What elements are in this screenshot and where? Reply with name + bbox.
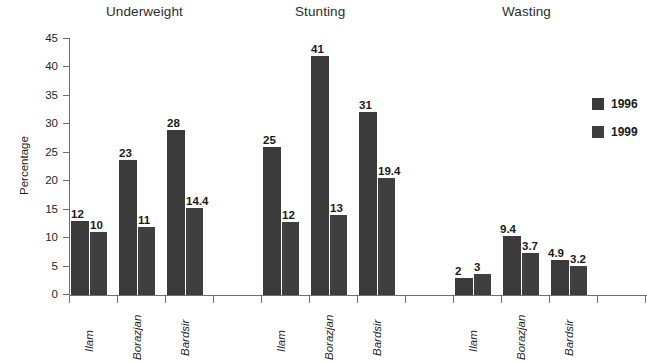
bar-underweight-ilam-1996[interactable] [71,221,89,295]
legend-label-1999: 1999 [611,125,638,139]
legend-swatch-1999-icon [592,126,604,138]
bar-value-wasting-ilam-1996: 2 [454,265,462,277]
x-tick-mark-5 [309,296,310,303]
x-tick-mark-10 [549,296,550,303]
x-tick-mark-2 [165,296,166,303]
group-title-wasting: Wasting [502,4,551,19]
y-tick-label-0: 0 [32,288,58,300]
bar-value-underweight-ilam-1996: 12 [70,208,85,220]
y-tick-label-45: 45 [32,32,58,44]
x-category-label-underweight-bardsir: Bardsir [179,320,191,356]
bar-value-underweight-bardsir-1999: 14.4 [185,195,209,207]
legend-item-1996[interactable]: 1996 [592,97,638,111]
y-tick-label-10: 10 [32,231,58,243]
bar-value-wasting-borazjan-1999: 3.7 [521,240,539,252]
x-category-label-stunting-borazjan: Borazjan [323,315,335,360]
legend-label-1996: 1996 [611,97,638,111]
x-tick-mark-9 [501,296,502,303]
y-tick-label-5: 5 [32,260,58,272]
bar-value-stunting-ilam-1999: 12 [281,209,296,221]
y-tick-label-15: 15 [32,203,58,215]
bar-wasting-ilam-1999[interactable] [473,274,491,295]
bar-value-wasting-borazjan-1996: 9.4 [499,223,517,235]
bar-stunting-ilam-1996[interactable] [263,147,281,295]
bar-wasting-bardsir-1999[interactable] [569,266,587,295]
x-tick-mark-11 [597,296,598,303]
bar-value-underweight-borazjan-1996: 23 [118,147,133,159]
bar-stunting-bardsir-1996[interactable] [359,112,377,295]
bar-value-wasting-bardsir-1996: 4.9 [547,247,565,259]
bar-value-underweight-ilam-1999: 10 [89,219,104,231]
bar-underweight-borazjan-1999[interactable] [137,227,155,295]
bar-underweight-borazjan-1996[interactable] [119,160,137,295]
y-axis-title: Percentage [18,136,30,195]
bar-wasting-borazjan-1996[interactable] [503,236,521,295]
x-category-label-stunting-bardsir: Bardsir [371,320,383,356]
x-category-label-wasting-borazjan: Borazjan [515,315,527,360]
x-tick-mark-3 [213,296,214,303]
bar-value-stunting-bardsir-1996: 31 [358,99,373,111]
bar-underweight-bardsir-1996[interactable] [167,130,185,295]
x-tick-mark-12 [645,296,646,303]
x-category-label-stunting-ilam: Ilam [275,330,287,352]
bar-underweight-bardsir-1999[interactable] [185,208,203,295]
bar-value-stunting-ilam-1996: 25 [262,134,277,146]
x-tick-mark-8 [453,296,454,303]
y-tick-label-40: 40 [32,60,58,72]
bar-wasting-borazjan-1999[interactable] [521,253,539,295]
bar-value-underweight-bardsir-1996: 28 [166,117,181,129]
x-category-label-underweight-borazjan: Borazjan [131,315,143,360]
bar-value-stunting-borazjan-1999: 13 [329,202,344,214]
bar-underweight-ilam-1999[interactable] [89,232,107,295]
y-tick-label-35: 35 [32,89,58,101]
bar-stunting-borazjan-1999[interactable] [329,215,347,295]
x-category-label-wasting-ilam: Ilam [467,330,479,352]
x-tick-mark-6 [357,296,358,303]
x-category-label-underweight-ilam: Ilam [83,330,95,352]
x-tick-mark-7 [405,296,406,303]
y-axis-line [69,38,70,295]
bar-stunting-ilam-1999[interactable] [281,222,299,295]
bar-stunting-bardsir-1999[interactable] [377,178,395,295]
bar-wasting-bardsir-1996[interactable] [551,260,569,295]
legend-swatch-1996-icon [592,98,604,110]
bar-value-wasting-ilam-1999: 3 [473,261,481,273]
bar-value-stunting-bardsir-1999: 19.4 [377,165,401,177]
bar-stunting-borazjan-1996[interactable] [311,56,329,295]
x-category-label-wasting-bardsir: Bardsir [563,320,575,356]
bar-value-underweight-borazjan-1999: 11 [137,214,151,226]
x-tick-mark-1 [117,296,118,303]
bar-wasting-ilam-1996[interactable] [455,278,473,295]
bar-value-stunting-borazjan-1996: 41 [310,43,325,55]
legend-item-1999[interactable]: 1999 [592,125,638,139]
x-tick-mark-0 [69,296,70,303]
y-tick-label-30: 30 [32,117,58,129]
group-title-stunting: Stunting [295,4,345,19]
x-tick-mark-4 [261,296,262,303]
bar-chart-figure: Underweight Stunting Wasting Percentage … [0,0,647,363]
bar-value-wasting-bardsir-1999: 3.2 [569,253,587,265]
group-title-underweight: Underweight [106,4,183,19]
y-tick-label-20: 20 [32,174,58,186]
y-tick-label-25: 25 [32,146,58,158]
x-axis-line [69,295,647,296]
